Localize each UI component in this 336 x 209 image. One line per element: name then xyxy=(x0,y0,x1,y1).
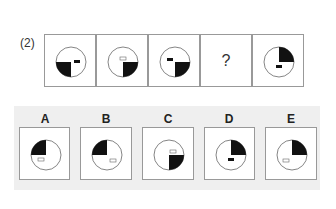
option-a[interactable] xyxy=(19,127,70,180)
question-number: (2) xyxy=(20,36,35,50)
circle-quadrant-icon xyxy=(143,128,195,181)
circle-quadrant-icon xyxy=(20,128,71,181)
circle-quadrant-icon xyxy=(81,128,133,181)
option-letter-e: E xyxy=(281,112,301,126)
circle-quadrant-icon xyxy=(45,35,97,88)
sequence-figure-5 xyxy=(252,34,304,87)
option-letter-d: D xyxy=(219,112,239,126)
circle-quadrant-icon xyxy=(253,35,305,88)
circle-quadrant-icon xyxy=(97,35,149,88)
sequence-figure-2 xyxy=(96,34,148,87)
circle-quadrant-icon xyxy=(266,128,318,181)
option-letter-b: B xyxy=(96,112,116,126)
option-letter-c: C xyxy=(158,112,178,126)
circle-quadrant-icon xyxy=(149,35,201,88)
circle-quadrant-icon xyxy=(205,128,256,181)
option-b[interactable] xyxy=(80,127,132,180)
unknown-figure-mark: ? xyxy=(201,52,251,70)
option-d[interactable] xyxy=(204,127,255,180)
sequence-figure-1 xyxy=(44,34,96,87)
sequence-figure-4: ? xyxy=(200,34,252,87)
option-letter-a: A xyxy=(35,112,55,126)
option-c[interactable] xyxy=(142,127,194,180)
sequence-figure-3 xyxy=(148,34,200,87)
option-e[interactable] xyxy=(265,127,317,180)
